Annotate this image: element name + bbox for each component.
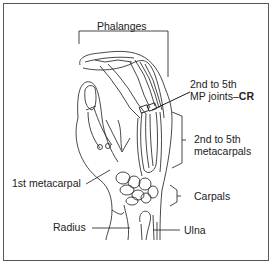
label-carpals: Carpals (194, 190, 230, 202)
label-metacarpals: 2nd to 5th metacarpals (194, 133, 251, 157)
radius-bone (124, 205, 129, 240)
metacarpals-bracket (172, 112, 182, 168)
label-phalanges: Phalanges (97, 20, 147, 32)
label-mp-joints-line2: MP joints–CR (190, 90, 254, 102)
first-metacarpal-leader (86, 170, 110, 184)
label-radius: Radius (53, 221, 86, 233)
carpal-bones (116, 172, 158, 205)
label-mp-joints-text: MP joints– (190, 90, 239, 102)
label-first-metacarpal: 1st metacarpal (12, 177, 81, 189)
label-ulna: Ulna (184, 224, 206, 236)
label-mp-joints-cr: CR (239, 90, 254, 102)
thumb-outline (78, 82, 118, 162)
carpals-bracket (170, 185, 177, 206)
label-mp-joints: 2nd to 5th MP joints–CR (190, 78, 254, 102)
label-metacarpals-line1: 2nd to 5th (194, 133, 251, 145)
label-metacarpals-line2: metacarpals (194, 145, 251, 157)
label-mp-joints-line1: 2nd to 5th (190, 78, 254, 90)
